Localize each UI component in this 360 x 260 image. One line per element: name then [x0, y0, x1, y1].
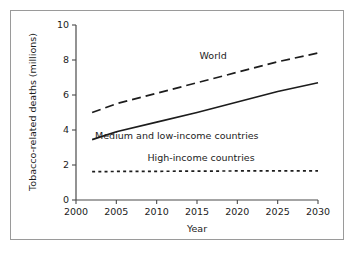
- x-tick-label: 2030: [306, 206, 330, 217]
- series-annotation-medium-and-low-income-countries: Medium and low-income countries: [95, 130, 259, 141]
- x-tick-label: 2015: [185, 206, 209, 217]
- x-tick-label: 2000: [64, 206, 88, 217]
- y-tick-label: 4: [63, 124, 69, 135]
- series-line-world: [92, 53, 318, 113]
- x-tick-label: 2020: [225, 206, 249, 217]
- series-annotations: WorldMedium and low-income countriesHigh…: [95, 50, 259, 163]
- y-axis-ticks: 0246810: [57, 19, 76, 205]
- y-tick-label: 8: [63, 54, 69, 65]
- y-tick-label: 6: [63, 89, 69, 100]
- series-annotation-high-income-countries: High-income countries: [147, 152, 254, 163]
- x-tick-label: 2005: [104, 206, 128, 217]
- y-tick-label: 0: [63, 194, 69, 205]
- series-line-high-income-countries: [92, 171, 318, 172]
- line-chart-canvas: 0246810 2000200520102015202020252030 Wor…: [0, 0, 360, 260]
- chart-figure: 0246810 2000200520102015202020252030 Wor…: [0, 0, 360, 260]
- y-axis-title: Tobacco-related deaths (millions): [27, 33, 38, 192]
- series-annotation-world: World: [200, 50, 227, 61]
- y-tick-label: 10: [57, 19, 69, 30]
- x-axis-title: Year: [186, 223, 207, 234]
- x-axis-ticks: 2000200520102015202020252030: [64, 200, 330, 217]
- x-tick-label: 2010: [145, 206, 169, 217]
- x-tick-label: 2025: [266, 206, 290, 217]
- y-tick-label: 2: [63, 159, 69, 170]
